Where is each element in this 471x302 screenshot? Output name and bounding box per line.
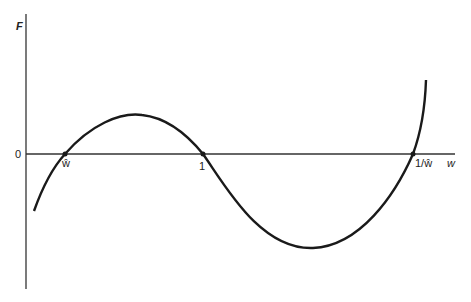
plot — [0, 0, 471, 302]
f-curve — [34, 80, 426, 248]
root2-label: 1 — [199, 160, 205, 172]
y-axis-label: F — [16, 20, 23, 32]
zero-label: 0 — [15, 148, 21, 160]
root1-label: ŵ — [62, 157, 70, 169]
root-marker-one — [201, 152, 206, 157]
root-marker-inv-w-hat — [411, 152, 416, 157]
x-axis-label: w — [447, 157, 455, 169]
root3-label: 1/ŵ — [415, 157, 432, 169]
root-marker-w-hat — [63, 152, 68, 157]
